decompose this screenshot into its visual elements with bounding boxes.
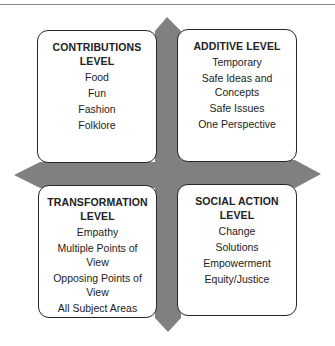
- list-item: All Subject Areas: [45, 301, 150, 315]
- contributions-level-box: CONTRIBUTIONS LEVEL Food Fun Fashion Fol…: [37, 30, 157, 163]
- transformation-level-title: TRANSFORMATION LEVEL: [41, 195, 154, 223]
- list-item: Safe Issues: [184, 101, 290, 115]
- list-item: One Perspective: [184, 117, 290, 131]
- list-item: Change: [184, 224, 290, 238]
- social-action-level-box: SOCIAL ACTION LEVEL Change Solutions Emp…: [177, 184, 297, 316]
- list-item: Folklore: [44, 118, 150, 132]
- list-item: Multiple Points of View: [47, 241, 148, 269]
- list-item: Fun: [44, 86, 150, 100]
- list-item: Empowerment: [184, 256, 290, 270]
- list-item: Equity/Justice: [184, 272, 290, 286]
- social-action-level-title: SOCIAL ACTION LEVEL: [190, 194, 284, 222]
- list-item: Food: [44, 70, 150, 84]
- list-item: Safe Ideas and Concepts: [192, 71, 282, 99]
- transformation-level-box: TRANSFORMATION LEVEL Empathy Multiple Po…: [38, 185, 157, 318]
- list-item: Empathy: [45, 225, 150, 239]
- contributions-level-title: CONTRIBUTIONS LEVEL: [42, 40, 152, 68]
- list-item: Opposing Points of View: [47, 271, 148, 299]
- list-item: Temporary: [184, 55, 290, 69]
- additive-level-box: ADDITIVE LEVEL Temporary Safe Ideas and …: [177, 29, 297, 162]
- list-item: Solutions: [184, 240, 290, 254]
- additive-level-title: ADDITIVE LEVEL: [182, 39, 292, 53]
- list-item: Fashion: [44, 102, 150, 116]
